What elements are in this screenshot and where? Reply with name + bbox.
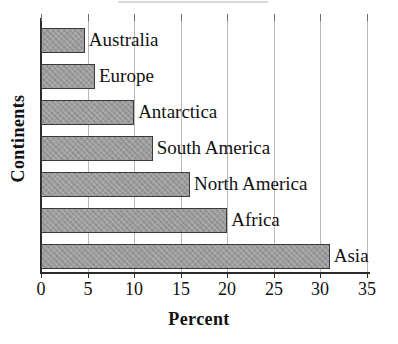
x-tick-label-15: 15	[161, 279, 201, 299]
gridline-25	[274, 20, 275, 272]
x-tick-0	[41, 272, 42, 278]
x-tick-top-10	[134, 14, 135, 21]
x-tick-top-30	[320, 14, 321, 21]
x-tick-top-20	[227, 14, 228, 21]
y-axis-title: Continents	[8, 59, 29, 219]
x-tick-30	[320, 272, 321, 278]
x-tick-top-35	[367, 14, 368, 21]
bar-antarctica	[41, 100, 134, 125]
x-tick-label-30: 30	[300, 279, 340, 299]
x-tick-label-10: 10	[114, 279, 154, 299]
bar-label-north-america: North America	[194, 173, 307, 194]
x-tick-label-20: 20	[207, 279, 247, 299]
x-tick-label-25: 25	[254, 279, 294, 299]
x-tick-15	[181, 272, 182, 278]
x-tick-label-0: 0	[21, 279, 61, 299]
bar-south-america	[41, 136, 153, 161]
x-tick-35	[367, 272, 368, 278]
x-tick-top-0	[41, 14, 42, 21]
x-axis-title: Percent	[0, 309, 398, 330]
bar-europe	[41, 64, 95, 89]
x-tick-label-5: 5	[68, 279, 108, 299]
bar-label-antarctica: Antarctica	[138, 101, 217, 122]
x-tick-top-25	[274, 14, 275, 21]
scan-artifact-line	[118, 1, 268, 3]
x-tick-25	[274, 272, 275, 278]
x-tick-label-35: 35	[347, 279, 387, 299]
bar-label-europe: Europe	[99, 65, 154, 86]
bar-chart: 05101520253035 AustraliaEuropeAntarctica…	[0, 0, 398, 344]
x-tick-top-5	[88, 14, 89, 21]
bar-africa	[41, 208, 227, 233]
gridline-35	[367, 20, 368, 272]
gridline-30	[320, 20, 321, 272]
x-tick-20	[227, 272, 228, 278]
bar-label-africa: Africa	[231, 209, 280, 230]
bar-label-asia: Asia	[334, 245, 369, 266]
bar-label-south-america: South America	[157, 137, 270, 158]
x-tick-10	[134, 272, 135, 278]
bar-north-america	[41, 172, 190, 197]
x-tick-5	[88, 272, 89, 278]
bar-label-australia: Australia	[89, 29, 159, 50]
x-tick-top-15	[181, 14, 182, 21]
bar-australia	[41, 28, 85, 53]
bar-asia	[41, 244, 330, 269]
